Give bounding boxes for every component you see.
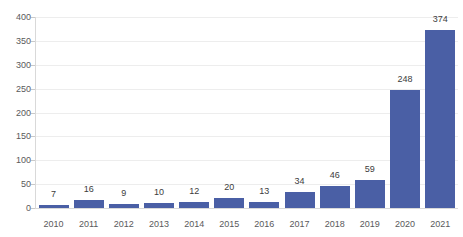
- y-axis-tick: [31, 89, 35, 90]
- bar-group: 34 2017: [282, 0, 317, 237]
- y-axis-label: 300: [3, 60, 31, 69]
- bar[interactable]: [320, 186, 350, 208]
- x-axis-label: 2021: [430, 220, 450, 229]
- y-axis-tick: [31, 17, 35, 18]
- y-axis-label: 150: [3, 132, 31, 141]
- x-axis-label: 2013: [149, 220, 169, 229]
- bar-value-label: 12: [189, 187, 199, 196]
- bar[interactable]: [390, 90, 420, 208]
- bar-value-label: 248: [397, 75, 412, 84]
- bar-value-label: 20: [224, 183, 234, 192]
- x-axis-label: 2016: [254, 220, 274, 229]
- bar-group: 248 2020: [387, 0, 422, 237]
- x-axis-label: 2012: [114, 220, 134, 229]
- y-axis-label: 0: [3, 204, 31, 213]
- y-axis-label: 50: [3, 180, 31, 189]
- bar-value-label: 46: [330, 171, 340, 180]
- y-axis-tick: [31, 184, 35, 185]
- x-axis-label: 2019: [360, 220, 380, 229]
- bar-group: 20 2015: [212, 0, 247, 237]
- x-axis-label: 2017: [290, 220, 310, 229]
- bar[interactable]: [214, 198, 244, 208]
- y-axis-tick: [31, 113, 35, 114]
- bars-layer: 7 2010 16 2011 9 2012 10 2013 12 2014 20…: [36, 0, 458, 237]
- bar-group: 46 2018: [317, 0, 352, 237]
- bar-group: 59 2019: [352, 0, 387, 237]
- bar-value-label: 10: [154, 188, 164, 197]
- bar-value-label: 34: [295, 177, 305, 186]
- bar-group: 13 2016: [247, 0, 282, 237]
- bar-group: 10 2013: [141, 0, 176, 237]
- x-axis-label: 2010: [44, 220, 64, 229]
- y-axis-label: 200: [3, 108, 31, 117]
- x-axis-label: 2018: [325, 220, 345, 229]
- x-axis-label: 2011: [79, 220, 98, 229]
- bar-value-label: 7: [51, 190, 56, 199]
- x-axis-label: 2014: [184, 220, 204, 229]
- bar-chart: 400 350 300 250 200 150 100 50 0 7 2010 …: [0, 0, 463, 237]
- y-axis-tick: [31, 136, 35, 137]
- y-axis-tick: [31, 41, 35, 42]
- y-axis-label: 250: [3, 84, 31, 93]
- bar-group: 16 2011: [71, 0, 106, 237]
- y-axis-label: 350: [3, 36, 31, 45]
- y-axis-label: 100: [3, 156, 31, 165]
- x-axis-line: [35, 208, 458, 209]
- y-axis-labels: 400 350 300 250 200 150 100 50 0: [0, 0, 31, 237]
- bar-value-label: 59: [365, 165, 375, 174]
- bar-value-label: 9: [121, 189, 126, 198]
- bar-value-label: 16: [84, 185, 94, 194]
- bar-group: 374 2021: [423, 0, 458, 237]
- y-axis-tick: [31, 160, 35, 161]
- bar-group: 9 2012: [106, 0, 141, 237]
- bar-value-label: 13: [259, 187, 269, 196]
- bar-group: 7 2010: [36, 0, 71, 237]
- bar[interactable]: [355, 180, 385, 208]
- y-axis-tick: [31, 65, 35, 66]
- bar[interactable]: [74, 200, 104, 208]
- x-axis-label: 2020: [395, 220, 415, 229]
- y-axis-label: 400: [3, 13, 31, 22]
- bar[interactable]: [425, 30, 455, 209]
- bar[interactable]: [285, 192, 315, 208]
- x-axis-label: 2015: [219, 220, 239, 229]
- bar-group: 12 2014: [177, 0, 212, 237]
- bar-value-label: 374: [433, 15, 448, 24]
